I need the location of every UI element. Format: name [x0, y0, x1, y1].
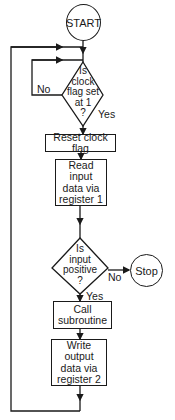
decision1-text: Is clock flag set at 1 ? [66, 66, 100, 119]
d1-line: ? [66, 108, 100, 119]
decision1-no-label: No [37, 84, 50, 95]
p3-line: subroutine [58, 315, 107, 327]
stop-terminal: Stop [130, 254, 163, 287]
decision1-yes-label: Yes [98, 109, 115, 120]
start-label: START [66, 17, 101, 29]
p2-line: Read input [56, 160, 106, 183]
decision2-no-label: No [108, 272, 121, 283]
process1-label: Reset clock flag [46, 132, 115, 155]
d1-line: Is [66, 66, 100, 77]
d2-line: positive [60, 265, 100, 276]
stop-label: Stop [135, 265, 158, 277]
call-subroutine-box: Call subroutine [53, 301, 112, 329]
p4-line: Write output [52, 340, 106, 363]
d2-line: Is [60, 244, 100, 255]
decision2-text: Is input positive ? [60, 244, 100, 286]
reset-clock-flag-box: Reset clock flag [45, 134, 116, 152]
d1-line: flag set [66, 87, 100, 98]
start-terminal: START [66, 4, 101, 41]
p2-line: register 1 [56, 194, 106, 206]
d2-line: ? [60, 276, 100, 287]
p4-line: register 2 [52, 374, 106, 386]
write-output-box: Write output data via register 2 [51, 339, 107, 386]
read-input-box: Read input data via register 1 [55, 159, 107, 206]
